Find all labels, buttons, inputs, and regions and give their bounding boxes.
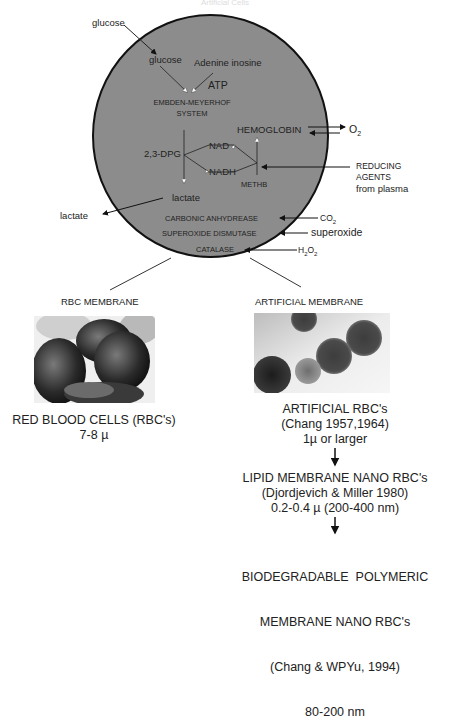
lactate-inside-label: lactate <box>172 192 200 203</box>
rbc-micrograph <box>34 316 155 403</box>
co2-label: CO2 <box>320 213 336 225</box>
lactate-outside-label: lactate <box>60 210 88 221</box>
rbc-membrane-label: RBC MEMBRANE <box>61 296 139 307</box>
nadh-label: NADH <box>209 166 236 177</box>
superoxide-dismutase-label: SUPEROXIDE DISMUTASE <box>162 229 256 238</box>
nad-label: NAD <box>209 140 229 151</box>
stage-polymeric-nano-rbc: BIODEGRADABLE POLYMERIC MEMBRANE NANO RB… <box>242 540 429 720</box>
hemoglobin-label: HEMOGLOBIN <box>237 124 301 135</box>
carbonic-anhydrease-label: CARBONIC ANHYDREASE <box>165 214 258 223</box>
stage-lipid-nano-rbc: LIPID MEMBRANE NANO RBC's (Djordjevich &… <box>242 471 427 516</box>
methb-label: METHB <box>241 180 267 189</box>
adenine-inosine-label: Adenine inosine <box>194 57 262 68</box>
rbc-caption: RED BLOOD CELLS (RBC's) 7-8 µ <box>12 413 176 443</box>
artificial-rbc-micrograph <box>254 313 390 393</box>
h2o2-label: H2O2 <box>298 245 317 257</box>
glucose-inside-label: glucose <box>149 54 182 65</box>
superoxide-outside-label: superoxide <box>311 226 362 238</box>
o2-label: O2 <box>349 123 361 137</box>
atp-label: ATP <box>208 79 228 91</box>
glucose-outside-label: glucose <box>92 17 125 28</box>
artificial-membrane-label: ARTIFICIAL MEMBRANE <box>255 296 363 307</box>
catalase-label: CATALASE <box>196 245 234 254</box>
reducing-agents-label: REDUCING AGENTS from plasma <box>356 161 408 194</box>
embden-meyerhof-label: EMBDEN-MEYERHOF SYSTEM <box>153 97 230 119</box>
dpg-label: 2,3-DPG <box>144 148 181 159</box>
stage-artificial-rbc: ARTIFICIAL RBC's (Chang 1957,1964) 1µ or… <box>281 402 389 447</box>
